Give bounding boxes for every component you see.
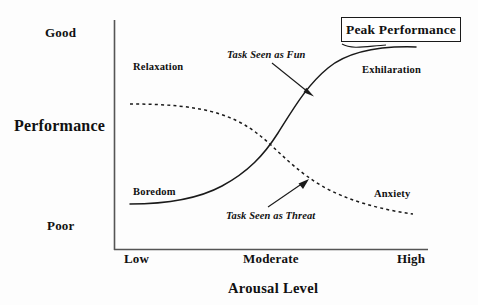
annotation-arrow-threat (268, 183, 303, 207)
y-axis-bottom-label: Poor (47, 219, 75, 232)
callout-peak-performance-label: Peak Performance (346, 22, 456, 38)
annotation-task-seen-as-threat: Task Seen as Threat (226, 211, 315, 222)
y-axis-title: Performance (14, 118, 105, 134)
x-axis-label-high: High (397, 252, 425, 265)
x-axis-title: Arousal Level (228, 281, 318, 296)
x-axis-label-low: Low (124, 252, 149, 265)
y-axis-top-label: Good (45, 26, 76, 39)
annotation-arrowhead-threat (299, 179, 310, 189)
zone-label-anxiety: Anxiety (374, 189, 410, 200)
annotation-task-seen-as-fun: Task Seen as Fun (227, 50, 306, 61)
callout-leader-line (342, 44, 386, 47)
annotation-arrow-fun (272, 63, 308, 92)
callout-peak-performance: Peak Performance (341, 17, 461, 42)
x-axis-label-moderate: Moderate (243, 252, 299, 265)
zone-label-relaxation: Relaxation (133, 62, 183, 73)
series-curve-task-seen-as-threat (130, 104, 413, 214)
zone-label-exhilaration: Exhilaration (362, 65, 421, 76)
zone-label-boredom: Boredom (133, 187, 176, 198)
chart-canvas: Good Poor Performance Low Moderate High … (0, 0, 478, 305)
